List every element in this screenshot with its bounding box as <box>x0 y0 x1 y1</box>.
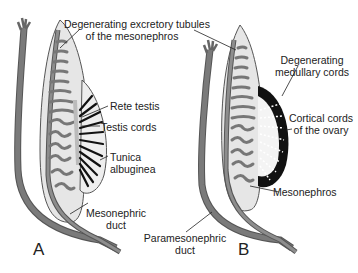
label-line: duct <box>84 219 148 231</box>
label-line: Mesonephric <box>84 207 148 219</box>
label-line: of the ovary <box>284 124 358 136</box>
label-medullary-cords: Degenerating medullary cords <box>266 54 358 78</box>
label-testis-cords: Testis cords <box>101 121 156 133</box>
label-paramesonephric-duct: Paramesonephric duct <box>140 232 230 256</box>
label-line: of the mesonephros <box>64 30 200 42</box>
label-excretory-tubules: Degenerating excretory tubules of the me… <box>64 18 200 42</box>
label-mesonephros: Mesonephros <box>273 186 337 198</box>
label-line: Paramesonephric <box>140 232 230 244</box>
label-line: Degenerating <box>266 54 358 66</box>
label-line: Tunica <box>110 151 156 163</box>
label-rete-testis: Rete testis <box>110 100 160 112</box>
label-line: albuginea <box>110 163 156 175</box>
label-mesonephric-duct: Mesonephric duct <box>84 207 148 231</box>
label-line: medullary cords <box>266 66 358 78</box>
label-line: Degenerating excretory tubules <box>64 18 200 30</box>
label-line: Cortical cords <box>284 112 358 124</box>
panel-letter-b: B <box>238 240 249 260</box>
label-cortical-cords: Cortical cords of the ovary <box>284 112 358 136</box>
label-tunica-albuginea: Tunica albuginea <box>110 151 156 175</box>
panel-letter-a: A <box>33 240 44 260</box>
label-line: duct <box>140 244 230 256</box>
